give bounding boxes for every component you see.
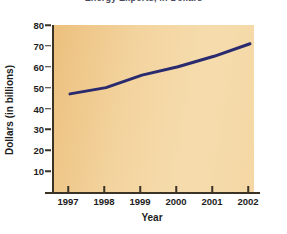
y-axis-tick-label: 80 xyxy=(18,20,44,31)
chart-figure: Energy Exports, in Dollars Dollars (in b… xyxy=(0,0,287,234)
y-axis-tick-label: 30 xyxy=(18,124,44,135)
y-axis-tick-mark xyxy=(45,108,51,110)
y-axis-tick-mark xyxy=(45,24,51,26)
x-axis-tick-mark xyxy=(211,186,213,192)
y-axis-tick-label: 40 xyxy=(18,103,44,114)
y-axis-label: Dollars (in billions) xyxy=(2,40,16,180)
x-axis-tick-marks xyxy=(52,186,257,193)
x-axis-tick-label: 2001 xyxy=(201,196,222,207)
x-axis-tick-mark xyxy=(139,186,141,192)
x-axis-tick-mark xyxy=(67,186,69,192)
x-axis-tick-mark xyxy=(175,186,177,192)
y-axis-tick-label: 10 xyxy=(18,166,44,177)
y-axis-tick-marks xyxy=(45,22,52,192)
y-axis-tick-label: 20 xyxy=(18,145,44,156)
x-axis-tick-label: 1998 xyxy=(93,196,114,207)
y-axis-tick-label: 50 xyxy=(18,82,44,93)
y-axis-tick-mark xyxy=(45,170,51,172)
y-axis-tick-mark xyxy=(45,87,51,89)
x-axis-tick-label: 2002 xyxy=(237,196,258,207)
x-axis-label: Year xyxy=(52,212,252,223)
series-line-svg xyxy=(54,25,254,192)
y-axis-tick-mark xyxy=(45,45,51,47)
y-axis-tick-mark xyxy=(45,129,51,131)
x-axis-tick-label: 2000 xyxy=(165,196,186,207)
x-axis-tick-mark xyxy=(103,186,105,192)
y-axis-tick-label: 60 xyxy=(18,61,44,72)
y-axis-tick-label: 70 xyxy=(18,40,44,51)
chart-title-cropped: Energy Exports, in Dollars xyxy=(0,0,287,7)
y-axis-tick-mark xyxy=(45,150,51,152)
x-axis-tick-labels: 199719981999200020012002 xyxy=(52,196,257,210)
x-axis-tick-mark xyxy=(247,186,249,192)
y-axis-label-text: Dollars (in billions) xyxy=(4,65,15,155)
chart-title-text: Energy Exports, in Dollars xyxy=(85,0,203,3)
y-axis-tick-mark xyxy=(45,66,51,68)
y-axis-tick-labels: 1020304050607080 xyxy=(18,22,44,192)
x-axis-tick-label: 1999 xyxy=(129,196,150,207)
plot-area xyxy=(52,25,254,192)
x-axis-tick-label: 1997 xyxy=(57,196,78,207)
series-line-dollars xyxy=(70,44,250,94)
